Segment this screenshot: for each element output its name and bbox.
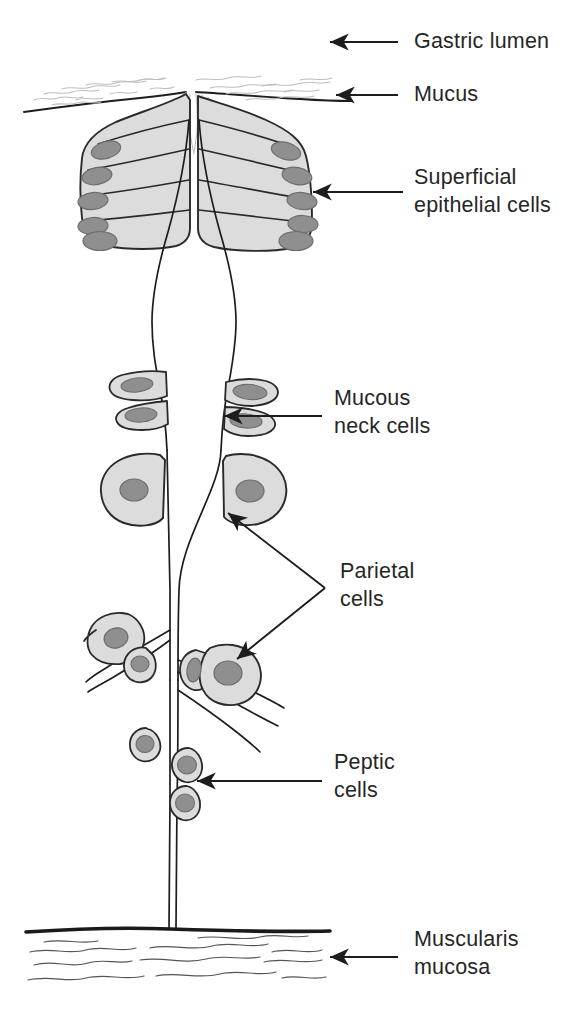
label-mucous-neck-cells-line1: Mucous bbox=[334, 386, 410, 410]
label-muscularis-mucosa-line1: Muscularis bbox=[414, 927, 519, 951]
label-parietal-cells-line1: Parietal bbox=[340, 559, 415, 583]
arrow-parietal-lower bbox=[237, 588, 325, 659]
gastric-gland-diagram: Gastric lumen Mucus Superficial epitheli… bbox=[0, 0, 575, 1022]
label-parietal-cells-line2: cells bbox=[340, 587, 384, 611]
parietal-cells-upper bbox=[101, 454, 286, 526]
muscularis-mucosa bbox=[26, 928, 330, 980]
label-gastric-lumen: Gastric lumen bbox=[414, 29, 549, 53]
label-mucous-neck-cells-line2: neck cells bbox=[334, 414, 430, 438]
parietal-cells-lower bbox=[84, 613, 261, 705]
superficial-epithelial-cells-right bbox=[198, 96, 318, 251]
label-muscularis-mucosa-line2: mucosa bbox=[414, 955, 490, 979]
mucous-neck-cells bbox=[110, 371, 278, 436]
label-superficial-epithelial-cells-line1: Superficial bbox=[414, 165, 517, 189]
peptic-cells bbox=[130, 728, 202, 820]
label-peptic-cells-line1: Peptic bbox=[334, 750, 395, 774]
label-peptic-cells-line2: cells bbox=[334, 778, 378, 802]
diagram-canvas: Gastric lumen Mucus Superficial epitheli… bbox=[0, 0, 575, 1022]
label-superficial-epithelial-cells-line2: epithelial cells bbox=[414, 193, 551, 217]
superficial-epithelial-cells-left bbox=[77, 94, 190, 251]
arrow-parietal-upper bbox=[228, 513, 325, 588]
label-mucus: Mucus bbox=[414, 82, 478, 106]
